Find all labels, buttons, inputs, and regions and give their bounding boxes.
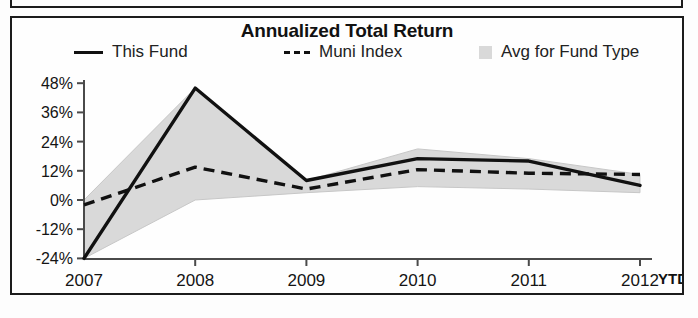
svg-text:2008: 2008	[176, 271, 214, 290]
svg-text:2007: 2007	[65, 271, 103, 290]
svg-text:2009: 2009	[287, 271, 325, 290]
partial-box-above-chart	[10, 0, 683, 8]
svg-text:-24%: -24%	[36, 250, 73, 267]
svg-text:YTD: YTD	[658, 270, 682, 287]
annualized-total-return-chart: 48%36%24%12%0%-12%-24% 20072008200920102…	[12, 18, 682, 293]
scanned-page: Annualized Total Return This Fund Muni I…	[0, 0, 698, 318]
y-axis-tick-labels: 48%36%24%12%0%-12%-24%	[36, 75, 73, 267]
svg-text:2012: 2012	[621, 271, 659, 290]
svg-text:2010: 2010	[399, 271, 437, 290]
series-area-avg-for-fund-type	[84, 88, 640, 258]
svg-text:0%: 0%	[50, 192, 73, 209]
svg-text:24%: 24%	[41, 134, 73, 151]
svg-text:2011: 2011	[511, 271, 548, 290]
svg-text:-12%: -12%	[36, 221, 73, 238]
plot-area: 48%36%24%12%0%-12%-24% 20072008200920102…	[12, 18, 682, 293]
x-axis-tick-labels: 200720082009201020112012YTD	[65, 270, 682, 290]
svg-text:48%: 48%	[41, 75, 73, 92]
svg-text:12%: 12%	[41, 163, 73, 180]
svg-text:36%: 36%	[41, 104, 73, 121]
chart-panel: Annualized Total Return This Fund Muni I…	[10, 16, 684, 295]
